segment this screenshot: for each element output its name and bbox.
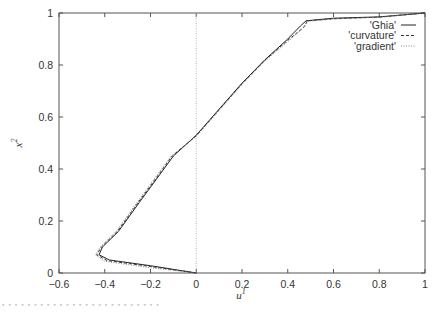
- y-axis-label: x2: [10, 139, 24, 149]
- plot-frame: [59, 13, 425, 273]
- x-tick-label: 0: [193, 278, 199, 290]
- y-tick-label: 0.6: [38, 111, 53, 123]
- y-tick-label: 0.8: [38, 59, 53, 71]
- y-tick-label: 0.4: [38, 163, 53, 175]
- x-axis-label: u1: [236, 287, 246, 301]
- y-tick-label: 1: [47, 7, 53, 19]
- y-tick-label: 0.2: [38, 215, 53, 227]
- x-tick-label: 0.6: [326, 278, 341, 290]
- series-line-2: [96, 13, 425, 273]
- x-tick-label: 0.8: [372, 278, 387, 290]
- legend-label: 'gradient': [354, 40, 396, 52]
- figure-caption-fragment: ▪ ▪ ▪ ▪ ▪ ▪ ▪ ▪ ▪ ▪ ▪ ▪ ▪ ▪ ▪ ▪ ▪ ▪ ▪ ▪ …: [2, 301, 160, 308]
- plot-border: [59, 13, 425, 273]
- y-tick-label: 0: [47, 267, 53, 279]
- data-series: [96, 13, 425, 273]
- series-line-0: [99, 13, 425, 273]
- x-tick-label: −0.6: [49, 278, 70, 290]
- legend: 'Ghia''curvature''gradient': [348, 19, 416, 52]
- x-tick-label: 0.4: [280, 278, 295, 290]
- line-chart: −0.6−0.4−0.200.20.40.60.8100.20.40.60.81…: [0, 0, 441, 313]
- x-tick-label: −0.2: [140, 278, 161, 290]
- series-line-1: [97, 13, 425, 273]
- x-tick-label: 1: [422, 278, 428, 290]
- x-tick-label: −0.4: [94, 278, 115, 290]
